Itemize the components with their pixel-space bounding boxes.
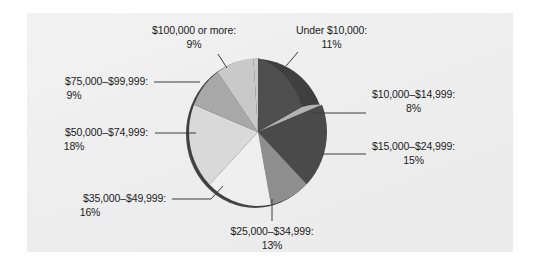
pie-label-35000-49999-title: $35,000–$49,999: bbox=[83, 192, 166, 204]
pie-label-15000-24999: $15,000–$24,999: 15% bbox=[372, 140, 455, 167]
pie-label-75000-99999: $75,000–$99,999: 9% bbox=[0, 75, 148, 102]
pie-label-under-10000: Under $10,000: 11% bbox=[296, 24, 367, 51]
pie-label-10000-14999-title: $10,000–$14,999: bbox=[372, 88, 455, 100]
pie-label-25000-34999-title: $25,000–$34,999: bbox=[230, 225, 313, 237]
pie-label-under-10000-title: Under $10,000: bbox=[296, 24, 367, 36]
pie-label-10000-14999-percent: 8% bbox=[372, 102, 455, 116]
leader-line-under-10000 bbox=[286, 52, 298, 66]
pie-label-15000-24999-percent: 15% bbox=[372, 154, 455, 168]
pie-label-100000-or-more: $100,000 or more: 9% bbox=[118, 24, 270, 51]
pie-label-35000-49999-percent: 16% bbox=[14, 206, 166, 220]
pie-label-under-10000-percent: 11% bbox=[296, 38, 367, 52]
pie-label-25000-34999: $25,000–$34,999: 13% bbox=[196, 225, 348, 252]
pie-label-100000-or-more-title: $100,000 or more: bbox=[152, 24, 236, 36]
pie-label-50000-74999: $50,000–$74,999: 18% bbox=[0, 126, 148, 153]
pie-slices bbox=[188, 58, 334, 207]
pie-label-100000-or-more-percent: 9% bbox=[118, 38, 270, 52]
pie-label-75000-99999-title: $75,000–$99,999: bbox=[65, 75, 148, 87]
pie-label-25000-34999-percent: 13% bbox=[196, 239, 348, 253]
pie-label-50000-74999-percent: 18% bbox=[0, 140, 148, 154]
pie-label-35000-49999: $35,000–$49,999: 16% bbox=[14, 192, 166, 219]
pie-label-10000-14999: $10,000–$14,999: 8% bbox=[372, 88, 455, 115]
pie-label-50000-74999-title: $50,000–$74,999: bbox=[65, 126, 148, 138]
pie-label-15000-24999-title: $15,000–$24,999: bbox=[372, 140, 455, 152]
pie-chart-figure: Under $10,000: 11% $10,000–$14,999: 8% $… bbox=[0, 0, 536, 279]
pie-label-75000-99999-percent: 9% bbox=[0, 89, 148, 103]
leader-line-100000-or-more bbox=[218, 54, 227, 68]
